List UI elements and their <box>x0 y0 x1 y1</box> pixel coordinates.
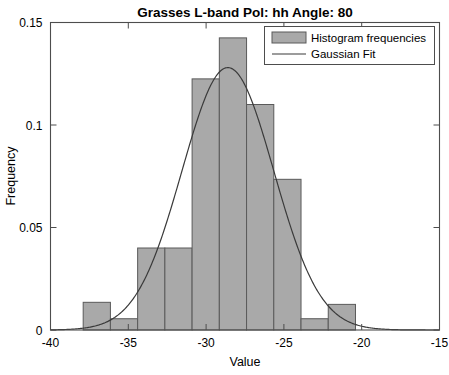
x-tick-label: -15 <box>431 336 449 350</box>
legend-swatch-histogram <box>272 32 306 43</box>
x-tick-label: -30 <box>197 336 215 350</box>
y-axis-label: Frequency <box>4 146 18 206</box>
x-tick-label: -40 <box>42 336 60 350</box>
histogram-bar <box>328 304 355 330</box>
histogram-bar <box>110 319 137 330</box>
histogram-bar <box>247 105 274 331</box>
legend-label-histogram: Histogram frequencies <box>311 32 426 44</box>
y-tick-label: 0 <box>36 324 43 338</box>
y-tick-label: 0.15 <box>19 16 43 30</box>
figure-container: Grasses L-band Pol: hh Angle: 80 -40-35-… <box>0 0 449 375</box>
x-tick-label: -35 <box>120 336 138 350</box>
chart-legend: Histogram frequencies Gaussian Fit <box>265 27 435 65</box>
y-tick-label: 0.05 <box>19 221 43 235</box>
chart-title: Grasses L-band Pol: hh Angle: 80 <box>137 5 353 20</box>
histogram-bar <box>274 179 301 330</box>
x-tick-label: -20 <box>353 336 371 350</box>
histogram-bar <box>192 79 219 330</box>
y-tick-label: 0.1 <box>26 119 43 133</box>
x-tick-label: -25 <box>275 336 293 350</box>
x-axis-label: Value <box>229 355 260 369</box>
histogram-chart: Grasses L-band Pol: hh Angle: 80 -40-35-… <box>0 0 449 375</box>
histogram-bar <box>138 248 165 330</box>
histogram-bar <box>165 248 192 330</box>
histogram-bar <box>301 319 328 330</box>
legend-label-gaussian: Gaussian Fit <box>311 48 376 60</box>
